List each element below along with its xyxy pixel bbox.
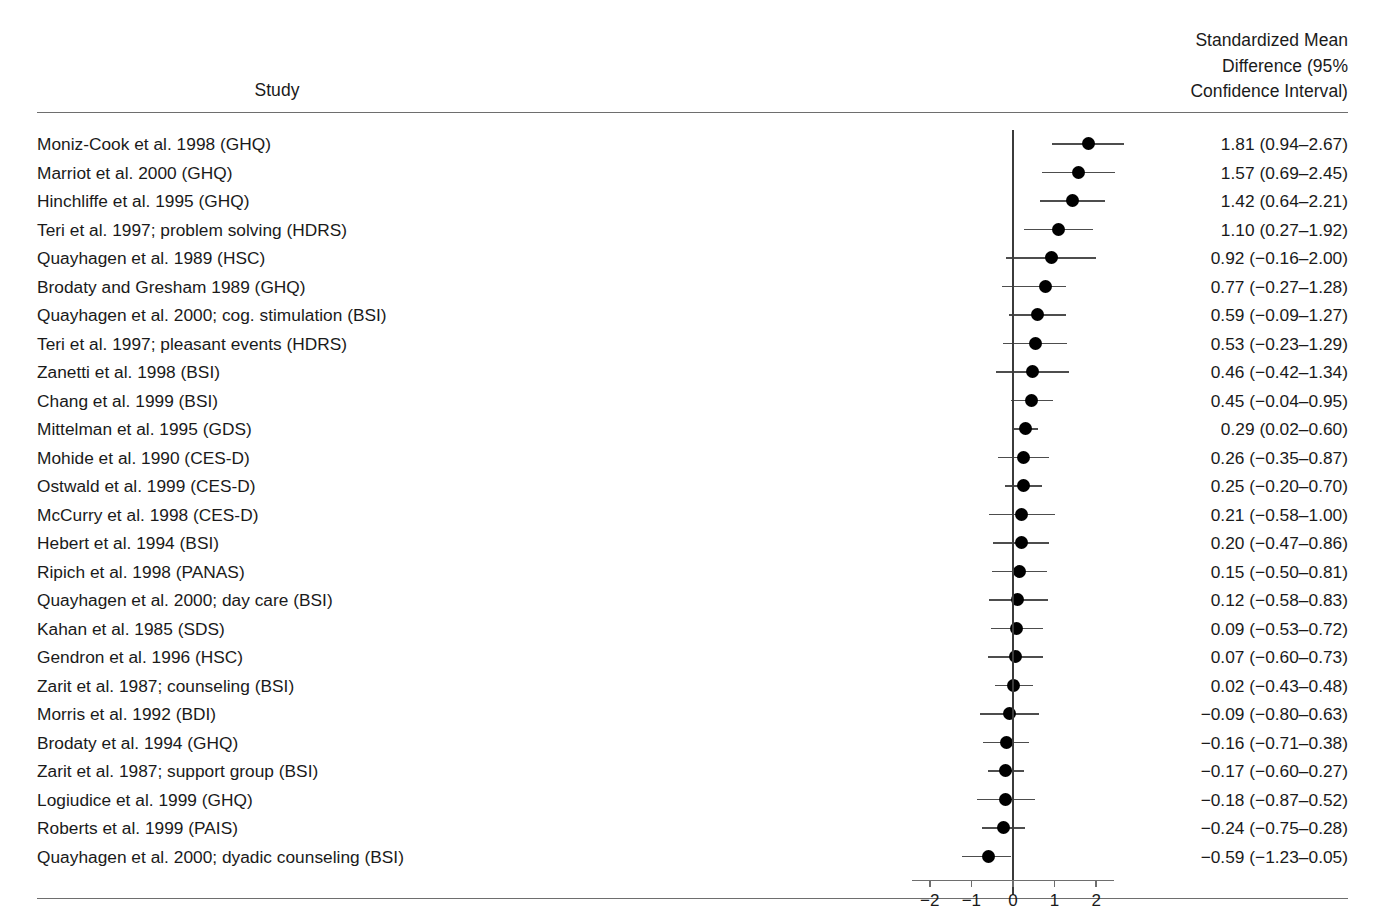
study-label: Kahan et al. 1985 (SDS) — [37, 618, 225, 640]
effect-size-value: 0.77 (−0.27–1.28) — [1211, 276, 1348, 298]
x-axis-tick-label: 0 — [993, 891, 1033, 911]
forest-plot-figure: Study Standardized Mean Difference (95% … — [0, 0, 1381, 923]
effect-size-marker — [997, 821, 1010, 834]
study-label: Quayhagen et al. 2000; day care (BSI) — [37, 589, 333, 611]
effect-size-value: −0.18 (−0.87–0.52) — [1201, 789, 1348, 811]
effect-size-value: 1.10 (0.27–1.92) — [1221, 219, 1348, 241]
study-label: Hinchliffe et al. 1995 (GHQ) — [37, 190, 250, 212]
forest-row: Brodaty and Gresham 1989 (GHQ)0.77 (−0.2… — [0, 276, 1381, 302]
study-label: Brodaty et al. 1994 (GHQ) — [37, 732, 238, 754]
study-label: Ripich et al. 1998 (PANAS) — [37, 561, 245, 583]
effect-size-marker — [1072, 166, 1085, 179]
effect-size-marker — [1007, 679, 1020, 692]
effect-size-value: −0.59 (−1.23–0.05) — [1201, 846, 1348, 868]
x-axis-tick — [1012, 881, 1014, 887]
study-label: Zarit et al. 1987; counseling (BSI) — [37, 675, 294, 697]
effect-size-marker — [1026, 365, 1039, 378]
null-effect-reference-line — [1012, 130, 1014, 895]
effect-size-value: 0.45 (−0.04–0.95) — [1211, 390, 1348, 412]
study-label: Chang et al. 1999 (BSI) — [37, 390, 218, 412]
effect-size-marker — [982, 850, 995, 863]
study-label: Gendron et al. 1996 (HSC) — [37, 646, 243, 668]
study-label: Moniz-Cook et al. 1998 (GHQ) — [37, 133, 271, 155]
effect-size-value: 0.12 (−0.58–0.83) — [1211, 589, 1348, 611]
effect-size-value: 0.21 (−0.58–1.00) — [1211, 504, 1348, 526]
study-label: Quayhagen et al. 1989 (HSC) — [37, 247, 265, 269]
forest-row: Brodaty et al. 1994 (GHQ)−0.16 (−0.71–0.… — [0, 732, 1381, 758]
effect-size-value: 0.07 (−0.60–0.73) — [1211, 646, 1348, 668]
forest-row: Ripich et al. 1998 (PANAS)0.15 (−0.50–0.… — [0, 561, 1381, 587]
study-label: Ostwald et al. 1999 (CES-D) — [37, 475, 256, 497]
study-label: Hebert et al. 1994 (BSI) — [37, 532, 219, 554]
study-label: Logiudice et al. 1999 (GHQ) — [37, 789, 253, 811]
effect-size-value: 0.09 (−0.53–0.72) — [1211, 618, 1348, 640]
effect-size-marker — [1052, 223, 1065, 236]
study-label: Quayhagen et al. 2000; dyadic counseling… — [37, 846, 404, 868]
effect-size-value: 1.42 (0.64–2.21) — [1221, 190, 1348, 212]
forest-plot-body: Moniz-Cook et al. 1998 (GHQ)1.81 (0.94–2… — [0, 0, 1381, 923]
effect-size-marker — [1082, 137, 1095, 150]
forest-row: Zarit et al. 1987; support group (BSI)−0… — [0, 760, 1381, 786]
forest-row: Teri et al. 1997; pleasant events (HDRS)… — [0, 333, 1381, 359]
x-axis-tick-label: −1 — [951, 891, 991, 911]
study-label: Morris et al. 1992 (BDI) — [37, 703, 216, 725]
x-axis-tick — [1054, 881, 1056, 887]
forest-row: Roberts et al. 1999 (PAIS)−0.24 (−0.75–0… — [0, 817, 1381, 843]
forest-row: Gendron et al. 1996 (HSC)0.07 (−0.60–0.7… — [0, 646, 1381, 672]
effect-size-value: 0.26 (−0.35–0.87) — [1211, 447, 1348, 469]
study-label: Teri et al. 1997; pleasant events (HDRS) — [37, 333, 347, 355]
x-axis-tick-label: −2 — [910, 891, 950, 911]
effect-size-marker — [1066, 194, 1079, 207]
forest-row: Hebert et al. 1994 (BSI)0.20 (−0.47–0.86… — [0, 532, 1381, 558]
forest-row: Kahan et al. 1985 (SDS)0.09 (−0.53–0.72) — [0, 618, 1381, 644]
x-axis-tick — [929, 881, 931, 887]
effect-size-marker — [1015, 536, 1028, 549]
effect-size-value: −0.17 (−0.60–0.27) — [1201, 760, 1348, 782]
effect-size-marker — [1031, 308, 1044, 321]
study-label: McCurry et al. 1998 (CES-D) — [37, 504, 258, 526]
study-label: Mohide et al. 1990 (CES-D) — [37, 447, 250, 469]
effect-size-marker — [1000, 736, 1013, 749]
effect-size-value: 0.92 (−0.16–2.00) — [1211, 247, 1348, 269]
study-label: Zanetti et al. 1998 (BSI) — [37, 361, 220, 383]
x-axis-tick-label: 1 — [1035, 891, 1075, 911]
study-label: Mittelman et al. 1995 (GDS) — [37, 418, 252, 440]
x-axis-tick — [971, 881, 973, 887]
effect-size-marker — [999, 764, 1012, 777]
study-label: Brodaty and Gresham 1989 (GHQ) — [37, 276, 306, 298]
effect-size-value: 0.29 (0.02–0.60) — [1221, 418, 1348, 440]
effect-size-value: 0.15 (−0.50–0.81) — [1211, 561, 1348, 583]
effect-size-value: −0.24 (−0.75–0.28) — [1201, 817, 1348, 839]
effect-size-value: 0.20 (−0.47–0.86) — [1211, 532, 1348, 554]
study-label: Zarit et al. 1987; support group (BSI) — [37, 760, 318, 782]
effect-size-marker — [1015, 508, 1028, 521]
forest-row: Logiudice et al. 1999 (GHQ)−0.18 (−0.87–… — [0, 789, 1381, 815]
x-axis-tick — [1095, 881, 1097, 887]
forest-row: Morris et al. 1992 (BDI)−0.09 (−0.80–0.6… — [0, 703, 1381, 729]
forest-row: Quayhagen et al. 2000; day care (BSI)0.1… — [0, 589, 1381, 615]
effect-size-marker — [1029, 337, 1042, 350]
effect-size-value: 0.59 (−0.09–1.27) — [1211, 304, 1348, 326]
effect-size-marker — [1039, 280, 1052, 293]
forest-row: Zanetti et al. 1998 (BSI)0.46 (−0.42–1.3… — [0, 361, 1381, 387]
forest-row: Hinchliffe et al. 1995 (GHQ)1.42 (0.64–2… — [0, 190, 1381, 216]
forest-row: Teri et al. 1997; problem solving (HDRS)… — [0, 219, 1381, 245]
study-label: Roberts et al. 1999 (PAIS) — [37, 817, 238, 839]
study-label: Teri et al. 1997; problem solving (HDRS) — [37, 219, 347, 241]
study-label: Marriot et al. 2000 (GHQ) — [37, 162, 232, 184]
x-axis-tick-label: 2 — [1076, 891, 1116, 911]
effect-size-value: 0.02 (−0.43–0.48) — [1211, 675, 1348, 697]
forest-row: Chang et al. 1999 (BSI)0.45 (−0.04–0.95) — [0, 390, 1381, 416]
forest-row: Mohide et al. 1990 (CES-D)0.26 (−0.35–0.… — [0, 447, 1381, 473]
effect-size-marker — [1017, 479, 1030, 492]
forest-row: Moniz-Cook et al. 1998 (GHQ)1.81 (0.94–2… — [0, 133, 1381, 159]
effect-size-marker — [1017, 451, 1030, 464]
effect-size-value: 0.25 (−0.20–0.70) — [1211, 475, 1348, 497]
effect-size-value: 1.81 (0.94–2.67) — [1221, 133, 1348, 155]
forest-row: Zarit et al. 1987; counseling (BSI)0.02 … — [0, 675, 1381, 701]
study-label: Quayhagen et al. 2000; cog. stimulation … — [37, 304, 387, 326]
effect-size-marker — [999, 793, 1012, 806]
effect-size-value: −0.09 (−0.80–0.63) — [1201, 703, 1348, 725]
forest-row: Quayhagen et al. 2000; cog. stimulation … — [0, 304, 1381, 330]
effect-size-value: 0.53 (−0.23–1.29) — [1211, 333, 1348, 355]
